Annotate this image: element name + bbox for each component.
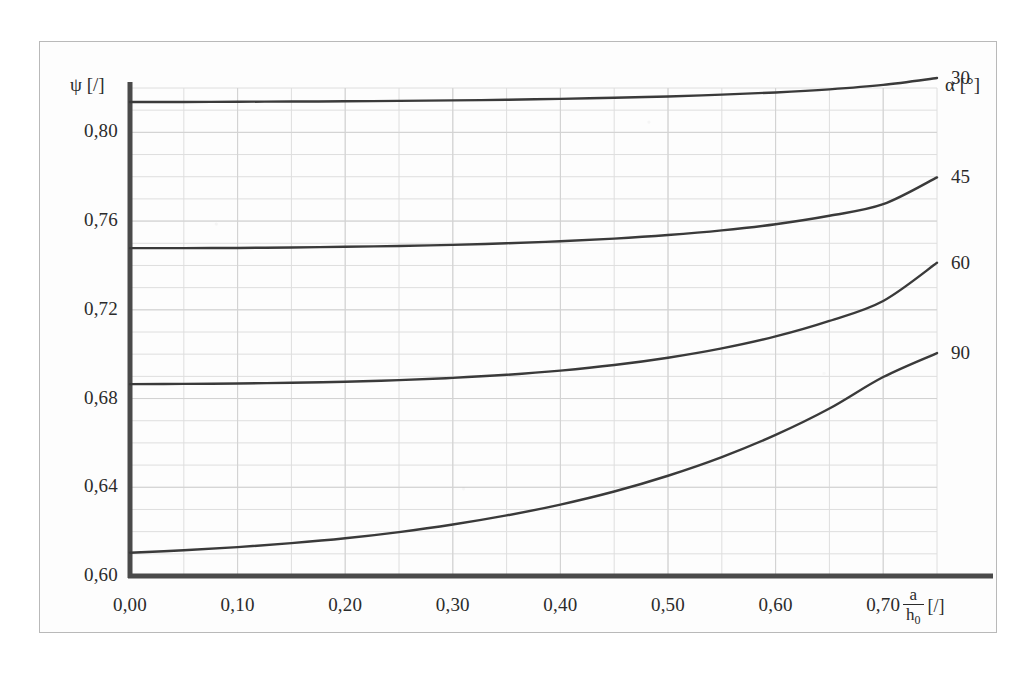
chart-plot-area bbox=[0, 0, 1030, 679]
x-axis-numerator: a bbox=[906, 586, 920, 604]
x-tick-label: 0,10 bbox=[203, 594, 273, 616]
x-axis-denominator: h0 bbox=[903, 605, 924, 626]
x-tick-label: 0,00 bbox=[95, 594, 165, 616]
y-tick-label: 0,80 bbox=[56, 120, 118, 142]
y-tick-label: 0,76 bbox=[56, 209, 118, 231]
x-tick-label: 0,60 bbox=[741, 594, 811, 616]
x-tick-label: 0,30 bbox=[418, 594, 488, 616]
x-axis-denominator-base: h bbox=[906, 605, 915, 624]
curve-alpha-45 bbox=[130, 177, 937, 248]
curve-alpha-60 bbox=[130, 263, 937, 384]
series-label-alpha-90: 90 bbox=[951, 342, 999, 364]
y-tick-label: 0,68 bbox=[56, 387, 118, 409]
x-tick-label: 0,20 bbox=[310, 594, 380, 616]
y-tick-label: 0,60 bbox=[56, 564, 118, 586]
y-tick-label: 0,72 bbox=[56, 298, 118, 320]
x-tick-label: 0,50 bbox=[633, 594, 703, 616]
curve-alpha-30 bbox=[130, 78, 937, 102]
x-axis-unit: [/] bbox=[928, 596, 945, 617]
x-tick-label: 0,40 bbox=[525, 594, 595, 616]
data-curves bbox=[130, 78, 937, 553]
series-label-alpha-60: 60 bbox=[951, 252, 999, 274]
gridlines-minor bbox=[130, 88, 937, 576]
y-tick-label: 0,64 bbox=[56, 475, 118, 497]
figure-root: ψ [/] α [°] 0,600,640,680,720,760,80 0,0… bbox=[0, 0, 1030, 679]
x-axis-label: a h0 [/] bbox=[903, 586, 945, 626]
x-axis-fraction: a h0 bbox=[903, 586, 924, 626]
y-axis-label: ψ [/] bbox=[70, 74, 105, 96]
series-label-alpha-45: 45 bbox=[951, 166, 999, 188]
series-label-alpha-30: 30 bbox=[951, 67, 999, 89]
x-axis-denominator-subscript: 0 bbox=[915, 613, 921, 627]
